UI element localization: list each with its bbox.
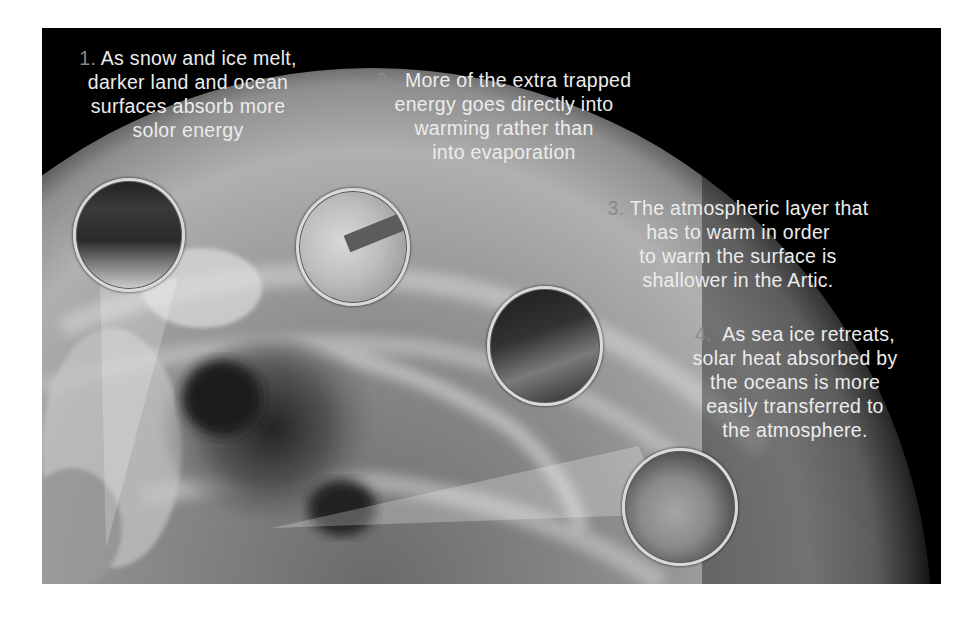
caption-text: solor energy	[54, 118, 322, 142]
inset-land-ocean-surface	[73, 178, 185, 292]
inset-atmospheric-layer	[487, 286, 603, 406]
caption-2: 2. More of the extra trapped energy goes…	[344, 68, 664, 164]
caption-text: darker land and ocean	[54, 70, 322, 94]
caption-text: shallower in the Artic.	[562, 268, 914, 292]
caption-text: the oceans is more	[654, 370, 936, 394]
caption-text: More of the extra trapped	[405, 69, 631, 91]
caption-text: surfaces absorb more	[54, 94, 322, 118]
arrow-icon	[344, 214, 405, 252]
figure-panel: 1. As snow and ice melt, darker land and…	[42, 28, 941, 584]
caption-number: 3.	[608, 197, 625, 219]
caption-number: 1.	[79, 47, 96, 69]
caption-text: energy goes directly into	[344, 92, 664, 116]
caption-1: 1. As snow and ice melt, darker land and…	[54, 46, 322, 142]
caption-text: As sea ice retreats,	[722, 323, 895, 345]
inset-energy-arrow	[296, 188, 410, 306]
caption-text: has to warm in order	[562, 220, 914, 244]
caption-text: The atmospheric layer that	[630, 197, 869, 219]
caption-text: solar heat absorbed by	[654, 346, 936, 370]
caption-text: warming rather than	[344, 116, 664, 140]
inset-sea-ice	[622, 448, 738, 566]
caption-text: the atmosphere.	[654, 418, 936, 442]
caption-text: As snow and ice melt,	[101, 47, 297, 69]
caption-text: to warm the surface is	[562, 244, 914, 268]
caption-text: easily transferred to	[654, 394, 936, 418]
caption-number: 4.	[695, 323, 712, 345]
caption-text: into evaporation	[344, 140, 664, 164]
caption-4: 4. As sea ice retreats, solar heat absor…	[654, 322, 936, 442]
caption-number: 2.	[377, 69, 394, 91]
caption-3: 3. The atmospheric layer that has to war…	[562, 196, 914, 292]
